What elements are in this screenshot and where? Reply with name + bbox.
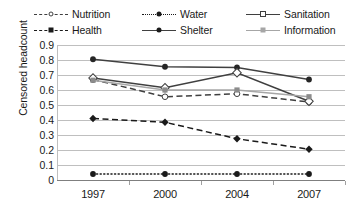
series-line-health	[93, 119, 309, 150]
data-point-water	[306, 171, 312, 177]
line-chart: Nutrition Health Water Shelter	[0, 0, 358, 213]
data-point-water	[90, 171, 96, 177]
data-point-information	[234, 87, 239, 92]
data-point-water	[234, 171, 240, 177]
x-tick-label: 2004	[207, 188, 267, 200]
data-point-shelter	[306, 77, 312, 83]
x-tick-label: 2007	[279, 188, 339, 200]
x-tick-label: 2000	[135, 188, 195, 200]
data-point-health	[305, 146, 312, 153]
data-point-health	[233, 135, 240, 142]
data-point-water	[162, 171, 168, 177]
data-point-shelter	[90, 56, 96, 62]
data-point-health	[89, 115, 96, 122]
series-layer	[0, 0, 358, 213]
data-point-information	[90, 78, 95, 83]
data-point-sanitation	[233, 69, 241, 77]
x-tick-mark	[201, 181, 202, 185]
x-tick-mark	[345, 181, 346, 185]
data-point-health	[161, 119, 168, 126]
data-point-shelter	[162, 64, 168, 70]
x-tick-mark	[273, 181, 274, 185]
data-point-nutrition	[162, 94, 168, 100]
x-tick-mark	[129, 181, 130, 185]
data-point-information	[162, 87, 167, 92]
series-line-shelter	[93, 59, 309, 79]
x-tick-label: 1997	[63, 188, 123, 200]
data-point-information	[306, 94, 311, 99]
